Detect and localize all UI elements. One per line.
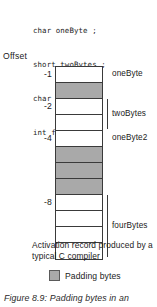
field-label: fourBytes: [112, 221, 148, 231]
memory-layout-diagram: -1-2-4-8 oneBytetwoBytesoneByte2fourByte…: [0, 66, 157, 238]
offset-tick: -4: [12, 133, 52, 143]
code-line: char oneByte ;: [33, 25, 106, 36]
padding-cell: [56, 147, 102, 163]
offset-tick-list: -1-2-4-8: [8, 66, 52, 238]
memory-cell-stack: [55, 66, 103, 260]
field-bracket: [107, 99, 108, 129]
padding-cell: [56, 179, 102, 195]
data-cell: [56, 67, 102, 83]
data-cell: [56, 99, 102, 115]
offset-tick: -2: [12, 101, 52, 111]
data-cell: [56, 211, 102, 227]
offset-tick: -1: [12, 69, 52, 79]
field-label: twoBytes: [112, 109, 146, 119]
figure-caption: Figure 8.9: Padding bytes in an: [4, 293, 157, 304]
activation-record-caption: Activation record produced by a typical …: [32, 240, 157, 262]
padding-cell: [56, 163, 102, 179]
offset-tick: -8: [12, 197, 52, 207]
padding-swatch-icon: [49, 270, 60, 281]
data-cell: [56, 131, 102, 147]
field-label: oneByte2: [112, 133, 147, 143]
padding-cell: [56, 83, 102, 99]
legend: Padding bytes: [49, 270, 121, 281]
offset-axis-label: Offset: [3, 51, 27, 61]
field-label-list: oneBytetwoBytesoneByte2fourBytes: [104, 66, 157, 238]
legend-label: Padding bytes: [65, 271, 121, 281]
data-cell: [56, 115, 102, 131]
field-label: oneByte: [112, 69, 143, 79]
data-cell: [56, 195, 102, 211]
